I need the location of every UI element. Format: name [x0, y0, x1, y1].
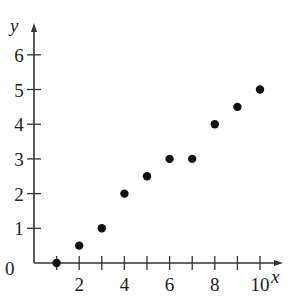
x-axis-label: x	[270, 266, 280, 287]
x-tick-label: 8	[210, 274, 220, 295]
y-tick-label: 1	[14, 218, 24, 239]
x-tick-label: 6	[165, 274, 175, 295]
y-tick-label: 5	[14, 80, 24, 101]
tick-labels: 246810123456	[14, 45, 269, 295]
data-points	[52, 85, 264, 267]
y-tick-label: 4	[14, 114, 24, 135]
data-point	[52, 259, 60, 267]
data-point	[143, 172, 151, 180]
data-point	[120, 189, 128, 197]
y-tick-label: 2	[14, 184, 24, 205]
origin-label: 0	[5, 258, 15, 279]
y-tick-label: 3	[14, 149, 24, 170]
scatter-chart: 246810123456 x y 0	[0, 0, 291, 308]
ticks	[27, 55, 260, 270]
y-tick-label: 6	[14, 45, 24, 66]
data-point	[75, 241, 83, 249]
data-point	[98, 224, 106, 232]
data-point	[165, 155, 173, 163]
axes	[31, 23, 283, 266]
x-tick-label: 10	[251, 274, 270, 295]
y-axis-arrow-icon	[31, 23, 37, 32]
data-point	[256, 85, 264, 93]
x-tick-label: 4	[120, 274, 130, 295]
y-axis-label: y	[8, 15, 19, 36]
data-point	[188, 155, 196, 163]
data-point	[233, 103, 241, 111]
data-point	[211, 120, 219, 128]
x-tick-label: 2	[74, 274, 84, 295]
